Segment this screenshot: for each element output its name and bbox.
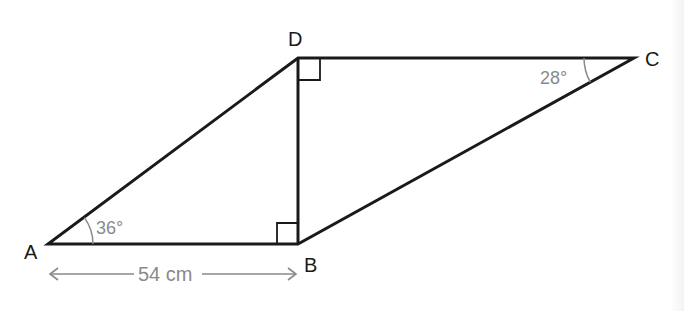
vertex-label-c: C: [645, 48, 659, 70]
diagram-svg: 36° 28° A B C D 54 cm: [0, 0, 684, 311]
angle-arc-c: [584, 58, 590, 82]
angle-arc-a: [84, 218, 93, 244]
quadrilateral-diagram: 36° 28° A B C D 54 cm: [0, 0, 684, 311]
dimension-label: 54 cm: [138, 263, 192, 285]
angle-label-a: 36°: [96, 218, 123, 238]
right-angle-marker-b: [277, 223, 298, 244]
right-angle-marker-d: [298, 58, 320, 80]
vertex-label-a: A: [24, 241, 38, 263]
vertex-label-d: D: [288, 28, 302, 50]
angle-label-c: 28°: [540, 68, 567, 88]
vertex-label-b: B: [304, 254, 317, 276]
